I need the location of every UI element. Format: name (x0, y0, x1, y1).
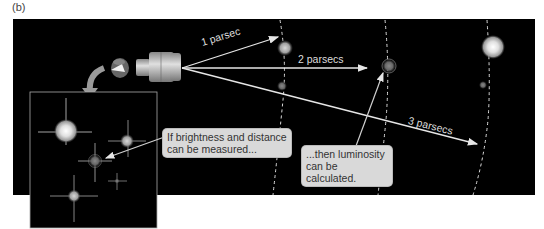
star-1pc-dim (277, 81, 287, 91)
callout-2-line-1: ...then luminosity (306, 148, 388, 160)
label-2-parsecs: 2 parsecs (298, 53, 344, 65)
star-3pc-dim (479, 81, 487, 89)
callout-1-line-2: can be measured... (167, 143, 287, 155)
callout-brightness-distance: If brightness and distance can be measur… (163, 129, 291, 157)
eye-icon (111, 58, 129, 78)
callout-luminosity: ...then luminosity can be calculated. (302, 146, 392, 186)
diagram-canvas (0, 0, 544, 229)
callout-2-line-2: can be calculated. (306, 160, 388, 184)
star-2pc (382, 59, 396, 73)
star-3pc-bright (481, 35, 505, 59)
star-field-inset (30, 92, 157, 228)
star-1pc-bright (277, 40, 293, 56)
callout-1-line-1: If brightness and distance (167, 131, 287, 143)
